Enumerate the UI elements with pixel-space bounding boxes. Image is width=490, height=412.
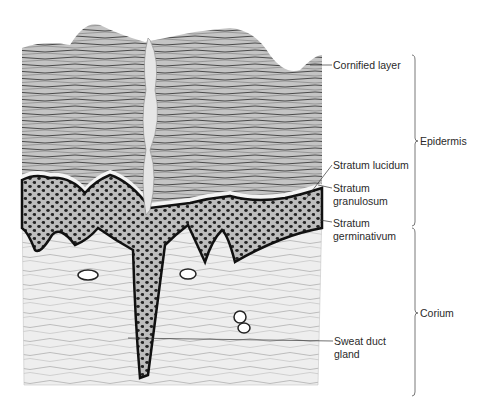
label-stratum-granulosum: Stratum granulosum [333,182,388,207]
region-brackets [412,55,418,396]
label-stratum-germinativum: Stratum germinativum [333,217,396,242]
vessel-4 [238,323,250,333]
vessel-1 [78,270,98,280]
corium-bracket [412,228,418,396]
label-stratum-lucidum: Stratum lucidum [333,159,409,172]
label-cornified-layer: Cornified layer [333,59,401,72]
epidermis-bracket [412,55,418,226]
vessel-3 [234,311,246,323]
skin-illustration [0,0,490,412]
vessel-2 [180,269,196,279]
label-sweat-duct-gland: Sweat duct gland [334,335,386,360]
skin-diagram: Cornified layer Stratum lucidum Stratum … [0,0,490,412]
label-corium: Corium [420,307,454,320]
label-epidermis: Epidermis [420,135,467,148]
